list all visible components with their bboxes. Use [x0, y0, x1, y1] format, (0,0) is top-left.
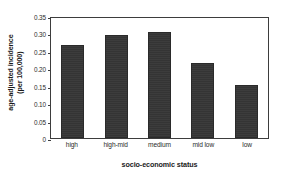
bar-series — [51, 18, 268, 138]
bar — [61, 45, 84, 138]
y-tick-label: 0.35 — [34, 14, 46, 21]
bar-slot — [52, 18, 94, 138]
bar — [105, 35, 128, 138]
bar-slot — [225, 18, 267, 138]
y-axis-title-line2: (per 100,000) — [15, 52, 23, 94]
bar — [148, 32, 171, 138]
x-axis-title: socio-economic status — [50, 160, 269, 169]
x-tick-slot: high — [51, 141, 94, 155]
x-tick-label: high-mid — [103, 141, 128, 148]
y-tick-label: 0.05 — [34, 118, 46, 125]
y-axis-tick — [48, 123, 51, 124]
y-tick-label: 0.20 — [34, 66, 46, 73]
y-tick-label: 0.10 — [34, 101, 46, 108]
y-axis-tick — [48, 105, 51, 106]
y-tick-label: 0.30 — [34, 31, 46, 38]
x-tick-slot: high-mid — [94, 141, 137, 155]
bar-slot — [138, 18, 180, 138]
y-axis-tick — [48, 70, 51, 71]
x-axis-tick-labels: highhigh-midmediummid lowlow — [50, 141, 269, 155]
y-axis-tick — [48, 88, 51, 89]
x-tick-label: low — [242, 141, 252, 148]
bar-slot — [182, 18, 224, 138]
x-tick-slot: low — [226, 141, 269, 155]
y-axis-title-line1: age-adjusted incidence — [6, 35, 14, 111]
bar — [235, 85, 258, 138]
x-tick-label: high — [66, 141, 78, 148]
y-axis-title: age-adjusted incidence (per 100,000) — [2, 0, 28, 146]
plot-area — [50, 17, 269, 139]
y-axis-tick — [48, 35, 51, 36]
x-tick-slot: medium — [138, 141, 181, 155]
bar — [191, 63, 214, 138]
y-tick-label: 0 — [43, 136, 46, 143]
y-axis-tick — [48, 18, 51, 19]
x-tick-label: mid low — [192, 141, 214, 148]
x-tick-label: medium — [148, 141, 171, 148]
x-tick-slot: mid low — [182, 141, 225, 155]
y-axis-tick-labels: 0.350.300.250.200.150.100.050 — [26, 11, 48, 145]
bar-slot — [95, 18, 137, 138]
y-tick-label: 0.15 — [34, 83, 46, 90]
y-axis-tick — [48, 53, 51, 54]
y-tick-label: 0.25 — [34, 48, 46, 55]
bar-chart: age-adjusted incidence (per 100,000) 0.3… — [0, 0, 282, 183]
